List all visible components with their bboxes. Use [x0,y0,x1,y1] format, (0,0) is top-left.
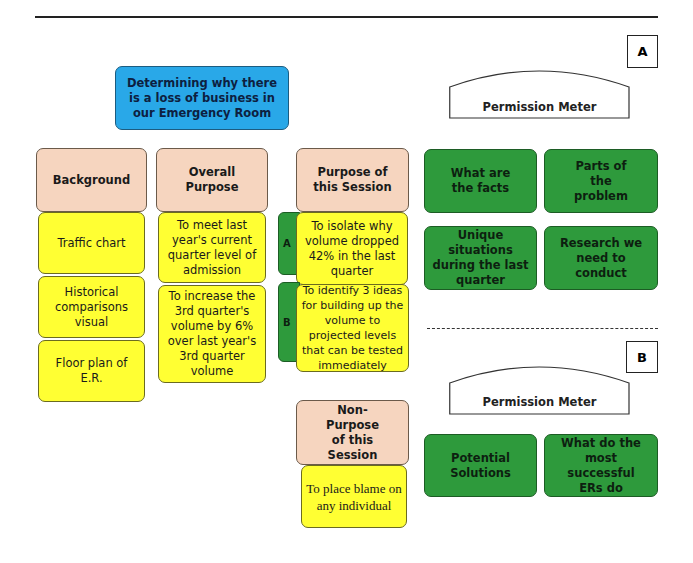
non-purpose-item: To place blame on any individual [301,465,407,528]
background-item-3: Floor plan of E.R. [38,340,145,402]
item-text: Historical comparisons visual [51,285,132,330]
background-header-label: Background [53,173,130,188]
section-a-label: A [627,35,658,68]
item-text: To place blame on any individual [306,480,402,514]
meter-label: Permission Meter [449,395,630,409]
section-a-box-2: Parts of the problem [544,149,658,213]
section-b-box-2: What do the most successful ERs do [544,434,658,497]
non-purpose-header-label: Non-Purpose of this Session [321,403,384,463]
background-header: Background [36,148,147,212]
box-text: Unique situations during the last quarte… [428,228,533,288]
permission-meter-b: Permission Meter [449,363,630,415]
top-divider [35,16,658,18]
box-text: What are the facts [449,166,512,196]
section-b-letter: B [637,350,647,365]
overall-purpose-item-1: To meet last year's current quarter leve… [158,212,266,283]
box-text: Parts of the problem [567,159,635,204]
overall-purpose-header-label: Overall Purpose [185,165,239,195]
section-a-letter: A [637,44,647,59]
title-box: Determining why there is a loss of busin… [115,66,289,130]
item-text: To isolate why volume dropped 42% in the… [303,219,401,279]
background-item-1: Traffic chart [38,212,145,274]
box-text: Research we need to conduct [549,236,653,281]
box-text: Potential Solutions [450,451,511,481]
section-a-box-3: Unique situations during the last quarte… [424,226,537,290]
permission-meter-a: Permission Meter [449,67,630,119]
item-text: Traffic chart [57,236,125,251]
item-text: To increase the 3rd quarter's volume by … [167,289,257,379]
section-a-box-1: What are the facts [424,149,537,213]
tab-label: B [283,317,291,328]
overall-purpose-header: Overall Purpose [156,148,268,212]
overall-purpose-item-2: To increase the 3rd quarter's volume by … [158,285,266,383]
session-purpose-item-b: To identify 3 ideas for building up the … [296,284,409,372]
session-purpose-header-label: Purpose of this Session [311,165,394,195]
item-text: Floor plan of E.R. [55,356,128,386]
section-b-label: B [626,341,658,373]
item-text: To identify 3 ideas for building up the … [299,283,406,373]
meter-label: Permission Meter [449,100,630,114]
section-a-box-4: Research we need to conduct [544,226,658,290]
non-purpose-header: Non-Purpose of this Session [296,400,409,465]
session-purpose-item-a: To isolate why volume dropped 42% in the… [296,212,408,285]
tab-label: A [283,238,291,249]
session-purpose-header: Purpose of this Session [296,148,409,212]
section-divider [427,328,658,329]
box-text: What do the most successful ERs do [555,436,647,496]
item-text: To meet last year's current quarter leve… [165,218,259,278]
section-b-box-1: Potential Solutions [424,434,537,497]
background-item-2: Historical comparisons visual [38,276,145,338]
title-text: Determining why there is a loss of busin… [126,76,278,121]
